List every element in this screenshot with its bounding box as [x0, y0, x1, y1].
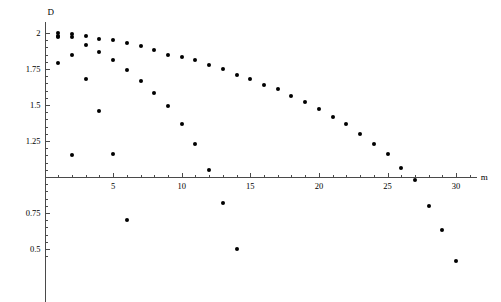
- data-point: [454, 259, 458, 263]
- data-point: [166, 104, 170, 108]
- data-point: [289, 94, 293, 98]
- data-point: [84, 43, 88, 47]
- y-axis-minor-tick: [45, 91, 48, 92]
- x-axis-minor-tick: [58, 175, 59, 178]
- data-point: [70, 53, 74, 57]
- x-axis-minor-tick: [401, 175, 402, 178]
- data-point: [125, 68, 129, 72]
- y-axis-minor-tick: [45, 220, 48, 221]
- y-axis-major-tick: [45, 213, 50, 214]
- x-axis-minor-tick: [305, 175, 306, 178]
- x-axis-major-tick: [388, 173, 389, 178]
- x-tick-label: 5: [111, 182, 115, 191]
- x-axis-minor-tick: [470, 175, 471, 178]
- y-axis-minor-tick: [45, 112, 48, 113]
- data-point: [207, 168, 211, 172]
- y-axis-minor-tick: [45, 98, 48, 99]
- y-axis-minor-tick: [45, 184, 48, 185]
- x-axis-minor-tick: [291, 175, 292, 178]
- y-axis-minor-tick: [45, 256, 48, 257]
- data-point: [372, 142, 376, 146]
- data-point: [248, 77, 252, 81]
- y-axis-minor-tick: [45, 55, 48, 56]
- x-axis-minor-tick: [237, 175, 238, 178]
- data-point: [386, 152, 390, 156]
- x-axis-minor-tick: [264, 175, 265, 178]
- data-point: [331, 115, 335, 119]
- y-tick-label: 0.75: [26, 209, 41, 218]
- data-point: [56, 35, 60, 39]
- y-axis-minor-tick: [45, 155, 48, 156]
- data-point: [262, 83, 266, 87]
- y-tick-label: 1.75: [26, 65, 41, 74]
- data-point: [413, 178, 417, 182]
- x-tick-label: 10: [177, 182, 186, 191]
- data-point: [317, 107, 321, 111]
- data-point: [440, 228, 444, 232]
- data-point: [180, 55, 184, 59]
- y-axis-major-tick: [45, 141, 50, 142]
- data-point: [235, 247, 239, 251]
- y-axis-minor-tick: [45, 47, 48, 48]
- data-point: [427, 204, 431, 208]
- data-point: [111, 38, 115, 42]
- x-axis-major-tick: [182, 173, 183, 178]
- y-tick-label: 1.5: [30, 101, 41, 110]
- y-axis-minor-tick: [45, 83, 48, 84]
- y-axis-minor-tick: [45, 177, 48, 178]
- data-point: [166, 53, 170, 57]
- data-point: [56, 61, 60, 65]
- x-axis-title: m: [481, 172, 488, 182]
- x-axis-minor-tick: [99, 175, 100, 178]
- x-axis-minor-tick: [374, 175, 375, 178]
- y-tick-label: 1.25: [26, 137, 41, 146]
- data-point: [125, 218, 129, 222]
- x-tick-label: 30: [452, 182, 461, 191]
- x-axis-minor-tick: [168, 175, 169, 178]
- data-point: [70, 35, 74, 39]
- x-axis-minor-tick: [346, 175, 347, 178]
- y-tick-label: 0.5: [30, 245, 41, 254]
- x-axis-minor-tick: [86, 175, 87, 178]
- data-point: [180, 122, 184, 126]
- y-axis-major-tick: [45, 249, 50, 250]
- y-axis-minor-tick: [45, 242, 48, 243]
- x-tick-label: 20: [315, 182, 324, 191]
- y-axis-minor-tick: [45, 163, 48, 164]
- y-tick-label: 2: [36, 29, 40, 38]
- x-axis-minor-tick: [127, 175, 128, 178]
- y-axis-major-tick: [45, 69, 50, 70]
- data-point: [358, 132, 362, 136]
- data-point: [303, 100, 307, 104]
- data-point: [344, 122, 348, 126]
- data-point: [111, 58, 115, 62]
- x-axis-minor-tick: [333, 175, 334, 178]
- x-axis-line: [45, 177, 477, 178]
- y-axis-major-tick: [45, 33, 50, 34]
- x-axis-minor-tick: [278, 175, 279, 178]
- data-point: [276, 87, 280, 91]
- y-axis-minor-tick: [45, 119, 48, 120]
- x-axis-minor-tick: [195, 175, 196, 178]
- x-axis-major-tick: [319, 173, 320, 178]
- data-point: [84, 34, 88, 38]
- y-axis-minor-tick: [45, 40, 48, 41]
- y-axis-minor-tick: [45, 127, 48, 128]
- data-point: [152, 91, 156, 95]
- data-point: [193, 58, 197, 62]
- y-axis-minor-tick: [45, 76, 48, 77]
- y-axis-minor-tick: [45, 227, 48, 228]
- x-axis-minor-tick: [360, 175, 361, 178]
- data-point: [97, 37, 101, 41]
- x-axis-major-tick: [113, 173, 114, 178]
- data-point: [152, 48, 156, 52]
- y-axis-minor-tick: [45, 206, 48, 207]
- x-axis-major-tick: [456, 173, 457, 178]
- data-point: [70, 153, 74, 157]
- y-axis-minor-tick: [45, 191, 48, 192]
- y-axis-minor-tick: [45, 62, 48, 63]
- y-axis-title: D: [48, 7, 55, 17]
- data-point: [84, 77, 88, 81]
- x-axis-major-tick: [250, 173, 251, 178]
- y-axis-minor-tick: [45, 235, 48, 236]
